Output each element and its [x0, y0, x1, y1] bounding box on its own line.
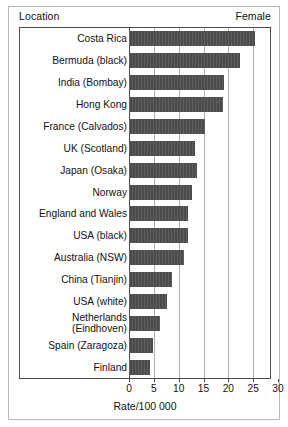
bar [129, 250, 184, 265]
x-tick-mark-10 [179, 379, 180, 382]
bar [129, 316, 160, 331]
bar [129, 97, 223, 112]
x-tick-label-0: 0 [117, 383, 141, 394]
category-label-line: France (Calvados) [43, 121, 127, 132]
bar [129, 206, 188, 221]
category-label-line: Bermuda (black) [52, 55, 127, 66]
x-tick-label-5: 5 [142, 383, 166, 394]
category-label: England and Wales [39, 208, 127, 219]
x-tick-mark-5 [154, 379, 155, 382]
bar [129, 141, 195, 156]
category-label: Netherlands(Eindhoven) [17, 312, 127, 334]
bar [129, 31, 255, 46]
x-tick-label-20: 20 [216, 383, 240, 394]
x-tick-mark-0 [129, 379, 130, 382]
category-label: Australia (NSW) [54, 252, 127, 263]
category-label: Costa Rica [77, 33, 127, 44]
category-label-line: Costa Rica [77, 33, 127, 44]
bar [129, 53, 240, 68]
category-label-line: Japan (Osaka) [60, 165, 127, 176]
x-axis-title: Rate/100 000 [19, 400, 271, 412]
gridline-20 [228, 28, 229, 378]
category-label-line: England and Wales [39, 208, 127, 219]
bar [129, 294, 167, 309]
category-label-line: Hong Kong [76, 99, 127, 110]
x-tick-mark-25 [253, 379, 254, 382]
figure-panel: Location Female Costa RicaBermuda (black… [8, 6, 280, 420]
category-label-line: Netherlands [17, 312, 127, 323]
bar [129, 163, 197, 178]
category-label-line: USA (black) [73, 230, 127, 241]
category-label: China (Tianjin) [61, 274, 127, 285]
x-tick-mark-20 [228, 379, 229, 382]
category-label: France (Calvados) [43, 121, 127, 132]
category-label: India (Bombay) [58, 77, 127, 88]
x-tick-label-10: 10 [167, 383, 191, 394]
category-label: Bermuda (black) [52, 55, 127, 66]
bar [129, 272, 172, 287]
category-label: UK (Scotland) [64, 143, 127, 154]
category-label-line: Norway [92, 187, 127, 198]
x-tick-mark-15 [204, 379, 205, 382]
category-label: Spain (Zaragoza) [48, 340, 127, 351]
category-label: Japan (Osaka) [60, 165, 127, 176]
category-label-line: Finland [94, 362, 127, 373]
category-label-line: China (Tianjin) [61, 274, 127, 285]
x-axis: 051015202530 [129, 379, 281, 399]
category-label: USA (black) [73, 230, 127, 241]
category-label-line: India (Bombay) [58, 77, 127, 88]
category-labels: Costa RicaBermuda (black)India (Bombay)H… [9, 27, 131, 379]
bar [129, 75, 224, 90]
x-tick-mark-30 [278, 379, 279, 382]
bar [129, 119, 205, 134]
category-label: USA (white) [73, 296, 127, 307]
x-tick-label-25: 25 [241, 383, 265, 394]
header-row: Location Female [9, 7, 281, 27]
category-label: Finland [94, 362, 127, 373]
category-label-line: Spain (Zaragoza) [48, 340, 127, 351]
x-tick-label-15: 15 [192, 383, 216, 394]
bar [129, 338, 153, 353]
x-tick-label-30: 30 [266, 383, 288, 394]
bar [129, 185, 192, 200]
category-label-line: (Eindhoven) [17, 323, 127, 334]
category-label-line: USA (white) [73, 296, 127, 307]
column-header-female: Female [235, 10, 271, 22]
gridline-25 [253, 28, 254, 378]
category-label-line: UK (Scotland) [64, 143, 127, 154]
bar [129, 360, 150, 375]
category-label: Norway [92, 187, 127, 198]
category-label: Hong Kong [76, 99, 127, 110]
column-header-location: Location [19, 10, 60, 22]
bar [129, 228, 188, 243]
plot-area [129, 28, 278, 378]
category-label-line: Australia (NSW) [54, 252, 127, 263]
